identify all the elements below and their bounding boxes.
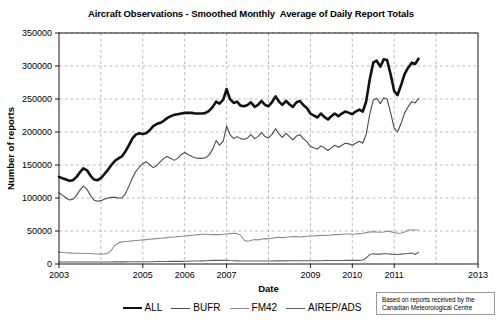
svg-text:150000: 150000 bbox=[22, 160, 52, 170]
legend-label-fm42: FM42 bbox=[252, 303, 278, 313]
series-line-airep-ads bbox=[59, 252, 419, 262]
source-note-line-2: Canadian Meteorological Centre bbox=[382, 304, 490, 312]
y-axis-title: Number of reports bbox=[5, 107, 16, 190]
svg-text:2009: 2009 bbox=[300, 270, 320, 280]
source-note-line-1: Based on reports received by the bbox=[382, 296, 490, 304]
series-line-all bbox=[59, 59, 419, 181]
series-line-fm42 bbox=[59, 230, 419, 254]
x-axis-ticks: 20032005200620072009201020112013 bbox=[49, 264, 488, 280]
gridlines bbox=[59, 33, 478, 264]
legend-swatch-all bbox=[123, 307, 142, 309]
data-series-layer bbox=[59, 59, 419, 262]
chart-plot: 0500001000001500002000002500003000003500… bbox=[0, 0, 502, 334]
legend-label-airep-ads: AIREP/ADS bbox=[308, 303, 361, 313]
svg-text:100000: 100000 bbox=[22, 193, 52, 203]
legend-swatch-bufr bbox=[171, 308, 190, 309]
legend-item-all[interactable]: ALL bbox=[123, 303, 163, 313]
legend-label-all: ALL bbox=[145, 303, 163, 313]
svg-text:2006: 2006 bbox=[175, 270, 195, 280]
y-axis-ticks: 0500001000001500002000002500003000003500… bbox=[22, 28, 59, 269]
svg-text:2003: 2003 bbox=[49, 270, 69, 280]
svg-text:2011: 2011 bbox=[385, 270, 404, 280]
svg-text:350000: 350000 bbox=[22, 28, 52, 38]
series-line-bufr bbox=[59, 98, 419, 202]
svg-text:250000: 250000 bbox=[22, 94, 52, 104]
svg-text:2007: 2007 bbox=[217, 270, 237, 280]
svg-text:300000: 300000 bbox=[22, 61, 52, 71]
chart-figure: Aircraft Observations - Smoothed Monthly… bbox=[0, 0, 502, 334]
svg-text:2005: 2005 bbox=[133, 270, 153, 280]
legend-swatch-airep-ads bbox=[286, 308, 305, 309]
chart-legend: ALL BUFR FM42 AIREP/ADS bbox=[118, 299, 366, 317]
svg-text:0: 0 bbox=[47, 259, 52, 269]
legend-label-bufr: BUFR bbox=[193, 303, 220, 313]
legend-item-bufr[interactable]: BUFR bbox=[171, 303, 220, 313]
svg-text:2013: 2013 bbox=[468, 270, 488, 280]
legend-item-airep-ads[interactable]: AIREP/ADS bbox=[286, 303, 361, 313]
svg-text:200000: 200000 bbox=[22, 127, 52, 137]
legend-item-fm42[interactable]: FM42 bbox=[230, 303, 278, 313]
x-axis-title: Date bbox=[258, 283, 279, 294]
source-annotation-box: Based on reports received by the Canadia… bbox=[376, 292, 495, 315]
legend-swatch-fm42 bbox=[230, 308, 249, 309]
svg-text:2010: 2010 bbox=[342, 270, 362, 280]
svg-text:50000: 50000 bbox=[27, 226, 52, 236]
